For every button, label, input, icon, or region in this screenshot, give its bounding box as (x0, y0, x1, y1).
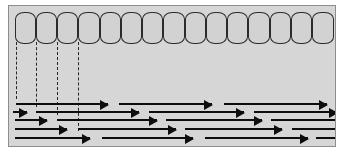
cell-5 (100, 12, 121, 44)
arrow-r4-1 (15, 128, 67, 130)
arrow-r1-3 (224, 103, 327, 105)
cell-9 (185, 12, 206, 44)
cell-2 (36, 12, 57, 44)
diagram-panel (8, 5, 336, 147)
arrow-r5-3 (205, 137, 308, 139)
cell-10 (206, 12, 227, 44)
cell-1 (15, 12, 36, 44)
cell-3 (57, 12, 78, 44)
arrow-r4-2 (78, 128, 176, 130)
arrow-row-5 (9, 133, 336, 142)
arrow-r2-3 (149, 111, 244, 113)
cell-14 (291, 12, 312, 44)
cell-13 (270, 12, 291, 44)
arrow-r1-2 (119, 103, 212, 105)
arrow-r4-3 (185, 128, 282, 130)
arrow-r1-1 (16, 103, 108, 105)
drop-line-1 (16, 42, 17, 99)
arrow-r3-2 (57, 119, 157, 121)
epithelial-cell-row (9, 12, 336, 44)
arrow-r5-4 (316, 137, 336, 139)
arrow-r3-4 (271, 119, 336, 121)
cell-4 (78, 12, 100, 44)
arrow-r3-3 (166, 119, 262, 121)
arrow-r2-1 (13, 111, 27, 113)
arrow-r3-1 (15, 119, 47, 121)
arrow-r5-1 (15, 137, 90, 139)
cell-11 (227, 12, 248, 44)
cell-8 (163, 12, 185, 44)
arrow-r5-2 (102, 137, 193, 139)
flow-diagram-figure (0, 0, 344, 154)
arrow-row-4 (9, 124, 336, 133)
arrow-r2-4 (254, 111, 336, 113)
arrow-row-3 (9, 115, 336, 124)
cell-6 (121, 12, 142, 44)
cell-15 (312, 12, 334, 44)
drop-line-2 (36, 42, 37, 107)
cell-7 (142, 12, 163, 44)
cell-12 (248, 12, 270, 44)
arrow-r2-2 (36, 111, 139, 113)
arrow-r4-4 (292, 128, 336, 130)
